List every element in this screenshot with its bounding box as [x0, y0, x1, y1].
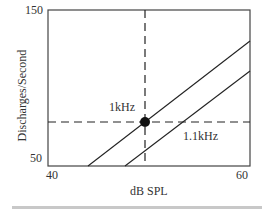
annotation-1-1khz: 1.1kHz	[183, 129, 218, 144]
plot-frame	[48, 10, 250, 166]
x-tick-max: 60	[236, 169, 248, 181]
y-axis-label: Discharges/Second	[15, 44, 30, 148]
bottom-divider	[12, 206, 262, 209]
intersection-marker	[140, 117, 150, 127]
x-tick-min: 40	[46, 169, 58, 181]
y-tick-min: 50	[30, 152, 42, 164]
annotation-1khz: 1kHz	[109, 100, 135, 115]
y-tick-max: 150	[25, 4, 43, 16]
x-axis-label: dB SPL	[130, 184, 168, 199]
